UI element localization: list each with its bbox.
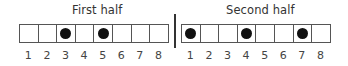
beat-number: 5 — [255, 49, 274, 62]
filled-dot-icon — [60, 28, 71, 39]
beat-cell — [182, 25, 201, 42]
beat-number: 3 — [218, 49, 237, 62]
beat-cell — [132, 25, 151, 42]
first-half-numbers: 12345678 — [19, 49, 168, 62]
second-half-row — [181, 24, 331, 43]
filled-dot-icon — [98, 28, 109, 39]
beat-cell — [39, 25, 58, 42]
beat-cell — [294, 25, 313, 42]
first-half-title: First half — [72, 3, 122, 17]
beat-number: 8 — [311, 49, 330, 62]
beat-cell — [238, 25, 257, 42]
beat-number: 4 — [237, 49, 256, 62]
beat-cell — [312, 25, 331, 42]
beat-number: 3 — [56, 49, 75, 62]
beat-cell — [94, 25, 113, 42]
second-half-numbers: 12345678 — [181, 49, 330, 62]
beat-number: 1 — [181, 49, 200, 62]
beat-number: 7 — [131, 49, 150, 62]
beat-number: 6 — [274, 49, 293, 62]
beat-cell — [219, 25, 238, 42]
beat-number: 6 — [112, 49, 131, 62]
beat-number: 1 — [19, 49, 38, 62]
beat-cell — [256, 25, 275, 42]
beat-number: 2 — [200, 49, 219, 62]
beat-number: 2 — [38, 49, 57, 62]
beat-cell — [150, 25, 169, 42]
beat-number: 5 — [93, 49, 112, 62]
filled-dot-icon — [241, 28, 252, 39]
beat-number: 7 — [293, 49, 312, 62]
beat-cell — [57, 25, 76, 42]
beat-cell — [76, 25, 95, 42]
beat-cell — [201, 25, 220, 42]
filled-dot-icon — [297, 28, 308, 39]
beat-cell — [20, 25, 39, 42]
beat-number: 8 — [149, 49, 168, 62]
beat-number: 4 — [75, 49, 94, 62]
half-divider — [174, 14, 176, 48]
filled-dot-icon — [185, 28, 196, 39]
second-half-title: Second half — [226, 3, 295, 17]
first-half-row — [19, 24, 169, 43]
beat-cell — [113, 25, 132, 42]
beat-cell — [275, 25, 294, 42]
